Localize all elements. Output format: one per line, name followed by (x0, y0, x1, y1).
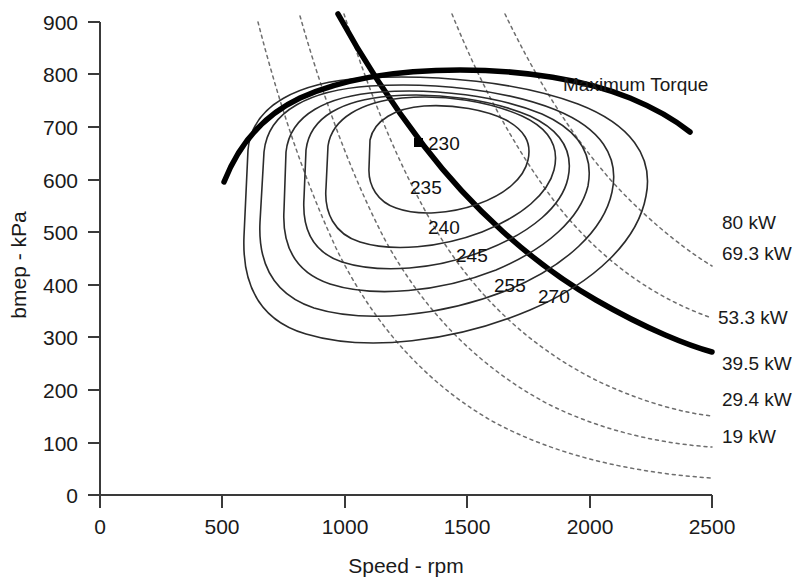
power-label-53kw: 53.3 kW (718, 307, 788, 328)
optimum-point-marker (414, 138, 423, 147)
power-curve-80kw-upper (505, 14, 712, 266)
y-tick-label-300: 300 (43, 326, 78, 349)
power-label-19kw: 19 kW (722, 426, 776, 447)
power-curve-53kw-highlight (338, 14, 712, 352)
x-tick-label-0: 0 (94, 515, 106, 538)
x-tick-label-1500: 1500 (444, 515, 491, 538)
y-tick-label-900: 900 (43, 11, 78, 34)
contour-label-245: 245 (456, 245, 488, 266)
contour-230 (369, 106, 529, 213)
power-label-29kw: 29.4 kW (722, 389, 792, 410)
engine-performance-map: 900 800 700 600 500 400 300 200 100 0 0 … (0, 0, 810, 582)
x-tick-label-2500: 2500 (689, 515, 736, 538)
contour-label-240: 240 (428, 217, 460, 238)
y-tick-label-600: 600 (43, 169, 78, 192)
max-torque-label: Maximum Torque (563, 74, 708, 95)
y-tick-label-700: 700 (43, 116, 78, 139)
y-tick-label-0: 0 (66, 484, 78, 507)
chart-canvas: 900 800 700 600 500 400 300 200 100 0 0 … (0, 0, 810, 582)
contour-255 (260, 85, 614, 316)
power-label-80kw: 80 kW (722, 212, 776, 233)
contour-label-235: 235 (410, 177, 442, 198)
y-axis-title: bmep - kPa (7, 211, 30, 319)
x-axis-title: Speed - rpm (348, 554, 464, 577)
y-tick-marks (88, 22, 100, 495)
y-tick-label-100: 100 (43, 432, 78, 455)
power-labels-group: 80 kW 69.3 kW 53.3 kW 39.5 kW 29.4 kW 19… (718, 212, 792, 447)
y-tick-label-800: 800 (43, 63, 78, 86)
x-tick-label-500: 500 (204, 515, 239, 538)
contour-label-230: 230 (428, 133, 460, 154)
bsfc-contours-group (244, 77, 648, 343)
y-tick-label-500: 500 (43, 221, 78, 244)
x-tick-marks (100, 495, 712, 508)
contour-label-270: 270 (538, 286, 570, 307)
contour-label-255: 255 (494, 275, 526, 296)
power-label-39kw: 39.5 kW (722, 353, 792, 374)
x-tick-label-1000: 1000 (322, 515, 369, 538)
y-tick-label-200: 200 (43, 379, 78, 402)
power-label-69kw: 69.3 kW (722, 243, 792, 264)
y-tick-label-400: 400 (43, 274, 78, 297)
x-tick-label-2000: 2000 (567, 515, 614, 538)
